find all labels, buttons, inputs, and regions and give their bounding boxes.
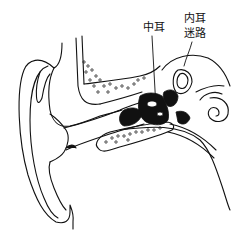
label-middle-ear: 中耳 <box>143 21 165 34</box>
temporal-bone-left <box>76 38 100 104</box>
bone-lower-edge <box>100 92 142 104</box>
semicircular-canal-inner <box>177 73 188 88</box>
eustachian-tube-top <box>170 124 216 150</box>
labyrinth-leader <box>184 42 192 66</box>
lower-bone-lobe <box>97 122 174 151</box>
eustachian-tube-bottom <box>168 132 214 158</box>
antitragus <box>49 162 66 210</box>
label-inner-ear: 内耳 <box>184 12 206 25</box>
inner-ear-outline <box>162 55 230 86</box>
helix-fold <box>36 72 50 102</box>
label-labyrinth: 迷路 <box>184 27 206 40</box>
skin-line-lower <box>120 127 230 210</box>
ear-diagram: 中耳 内耳 迷路 <box>0 0 240 247</box>
vestibular-nerve <box>196 85 224 92</box>
tragus <box>50 114 68 162</box>
ear-canal-bottom <box>66 124 144 150</box>
temporal-bone-right <box>82 36 84 84</box>
concha <box>49 68 122 126</box>
cochlea <box>208 98 228 122</box>
auricle-outer-rim <box>19 43 73 229</box>
